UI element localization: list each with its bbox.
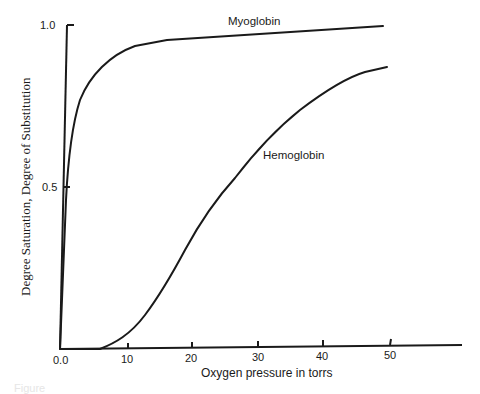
hemoglobin-curve: [60, 67, 387, 349]
figure-caption: Figure: [14, 382, 45, 394]
y-tick-label-1.0: 1.0: [40, 19, 55, 31]
x-tick-label-0: 0.0: [53, 354, 68, 366]
x-tick-label-50: 50: [384, 349, 396, 361]
x-tick-label-20: 20: [185, 352, 197, 364]
y-axis-title: Degree Saturation, Degree of Substitutio…: [18, 77, 33, 296]
x-tick-50: [390, 339, 391, 345]
x-axis: [60, 345, 462, 349]
myoglobin-curve: [60, 26, 383, 349]
x-tick-label-10: 10: [121, 353, 133, 365]
x-tick-label-40: 40: [316, 350, 328, 362]
myoglobin-label: Myoglobin: [228, 15, 280, 27]
oxygen-binding-chart: 1.0 0.5 0.0 10 20 30 40 50 Oxygen pressu…: [0, 0, 480, 394]
x-tick-label-30: 30: [252, 351, 264, 363]
x-axis-title: Oxygen pressure in torrs: [201, 366, 332, 380]
hemoglobin-label: Hemoglobin: [263, 149, 324, 161]
y-tick-label-0.5: 0.5: [42, 181, 57, 193]
